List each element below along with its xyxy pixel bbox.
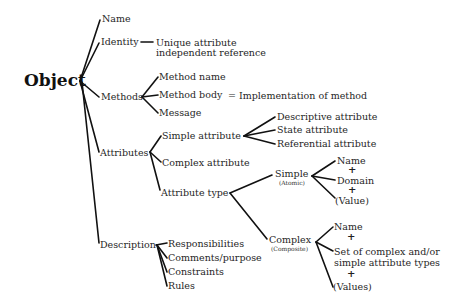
method-body-definition: = Implementation of method [228, 90, 367, 101]
node-complex: Complex [269, 234, 311, 245]
node-name: Name [102, 13, 131, 24]
plus-sign: + [347, 231, 355, 242]
label-atomic: (Atomic) [279, 179, 305, 186]
object-model-diagram: Object Name Identity Unique attribute in… [0, 0, 463, 306]
node-descriptive-attribute: Descriptive attribute [277, 111, 377, 122]
node-complex-values: (Values) [333, 281, 372, 292]
node-identity: Identity [101, 36, 139, 47]
plus-sign: + [347, 268, 355, 279]
plus-sign: + [348, 184, 356, 195]
node-complex-attribute: Complex attribute [162, 157, 250, 168]
label-composite: (Composite) [271, 245, 308, 252]
node-description: Description [100, 239, 156, 250]
root-node-object: Object [24, 71, 86, 90]
node-complex-set-line2: simple attribute types [334, 257, 440, 268]
node-state-attribute: State attribute [277, 124, 348, 135]
node-responsibilities: Responsibilities [168, 238, 244, 249]
node-method-name: Method name [159, 71, 226, 82]
node-simple-attribute: Simple attribute [162, 130, 241, 141]
node-attribute-type: Attribute type [161, 187, 228, 198]
node-comments-purpose: Comments/purpose [168, 252, 262, 263]
node-message: Message [159, 107, 201, 118]
node-complex-set-line1: Set of complex and/or [334, 246, 440, 257]
node-referential-attribute: Referential attribute [277, 138, 376, 149]
identity-desc-line2: independent reference [156, 47, 266, 58]
node-method-body: Method body [159, 89, 222, 100]
node-methods: Methods [101, 91, 143, 102]
node-simple-value: (Value) [335, 195, 369, 206]
node-rules: Rules [168, 280, 195, 291]
node-attributes: Attributes [100, 147, 148, 158]
plus-sign: + [348, 164, 356, 175]
node-simple: Simple [275, 168, 308, 179]
node-constraints: Constraints [168, 266, 224, 277]
